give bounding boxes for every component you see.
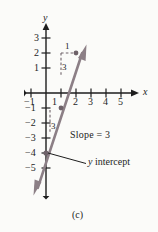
y-tick-label--4: −4	[25, 148, 36, 158]
x-tick-label-3: 3	[88, 97, 93, 107]
figure-caption: (c)	[72, 210, 83, 220]
x-tick-label-5: 5	[118, 97, 123, 107]
y-tick-label--3: −3	[25, 133, 36, 143]
x-tick-label-2: 2	[73, 97, 78, 107]
y-axis-bottom-cap	[43, 196, 50, 200]
x-axis-label: x	[143, 87, 147, 97]
y-tick-label-1: 1	[34, 63, 39, 73]
y-axis-arrowhead	[43, 23, 50, 30]
coordinate-plane	[0, 0, 158, 232]
x-axis-arrowhead	[131, 90, 139, 97]
y-intercept-leader-line	[48, 153, 86, 164]
point-y-intercept	[43, 150, 48, 155]
y-tick-label--2: −2	[25, 118, 36, 128]
y-tick-label-2: 2	[34, 48, 39, 58]
graph-figure: −1 1 2 3 4 5 3 2 1 −1 −2 −3 −4 −5 y x 1 …	[0, 0, 158, 232]
slope-label: Slope = 3	[70, 130, 110, 140]
x-tick-label-1: 1	[52, 97, 57, 107]
point-rise-run-lower	[59, 106, 64, 111]
y-tick-label-3: 3	[34, 33, 39, 43]
y-intercept-label-text: intercept	[92, 156, 129, 167]
line-arrowhead-bottom	[34, 180, 42, 196]
rise-annotation-upper: 3	[62, 63, 67, 72]
y-axis-label: y	[43, 13, 47, 23]
x-tick-label-4: 4	[103, 97, 108, 107]
rise-annotation-lower: 3	[51, 122, 56, 131]
y-intercept-label: y intercept	[88, 157, 130, 167]
run-annotation-upper: 1	[65, 42, 70, 51]
y-tick-label--5: −5	[25, 163, 36, 173]
plotted-line	[38, 53, 82, 188]
y-tick-label--1: −1	[25, 103, 36, 113]
